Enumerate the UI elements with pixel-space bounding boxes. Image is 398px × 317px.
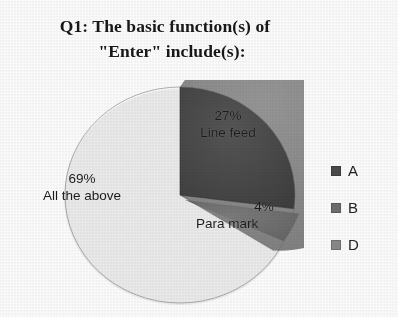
legend-label-b: B (348, 200, 358, 215)
pie-label-all-the-above-percent: 69% (14, 170, 150, 187)
chart-legend: A B D (331, 152, 391, 263)
pie-chart-figure: Q1: The basic function(s) of "Enter" inc… (0, 0, 398, 317)
pie-label-line-feed: 27% Line feed (176, 107, 280, 141)
legend-swatch-icon (331, 166, 341, 176)
legend-swatch-icon (331, 203, 341, 213)
pie-label-para-mark: 4% Para mark (196, 198, 308, 232)
chart-area: 27% Line feed 4% Para mark 69% All the a… (0, 0, 398, 317)
pie-label-para-mark-percent: 4% (196, 198, 308, 215)
pie-label-line-feed-percent: 27% (176, 107, 280, 124)
legend-swatch-icon (331, 240, 341, 250)
pie-label-all-the-above-name: All the above (14, 187, 150, 204)
legend-item-d[interactable]: D (331, 226, 391, 263)
legend-item-a[interactable]: A (331, 152, 391, 189)
pie-label-line-feed-name: Line feed (176, 124, 280, 141)
pie-label-all-the-above: 69% All the above (14, 170, 150, 204)
legend-item-b[interactable]: B (331, 189, 391, 226)
legend-label-a: A (348, 163, 358, 178)
legend-label-d: D (348, 237, 359, 252)
pie-label-para-mark-name: Para mark (196, 215, 308, 232)
